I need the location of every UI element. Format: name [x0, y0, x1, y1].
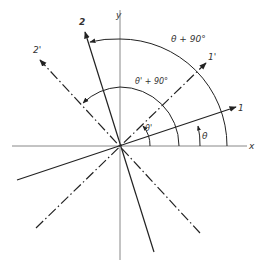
rotation-diagram: x y 1 1' 2 2' θ + 90° θ' + 90° θ θ' — [0, 0, 267, 267]
line-2-label: 2 — [79, 17, 85, 27]
line-1 — [17, 107, 236, 180]
label-theta-prime: θ' — [145, 124, 152, 133]
label-theta-prime-plus-90: θ' + 90° — [135, 77, 168, 86]
x-axis-label: x — [248, 141, 255, 151]
line-2-prime-label: 2' — [33, 45, 41, 55]
line-1-prime-label: 1' — [208, 52, 216, 62]
label-theta: θ — [202, 131, 208, 141]
arc-theta — [198, 126, 200, 146]
line-1-label: 1 — [238, 103, 244, 113]
y-axis-label: y — [115, 10, 122, 20]
arc-theta-plus-90 — [90, 39, 227, 146]
label-theta-plus-90: θ + 90° — [171, 34, 206, 44]
arc-theta-prime-plus-90 — [83, 87, 179, 146]
